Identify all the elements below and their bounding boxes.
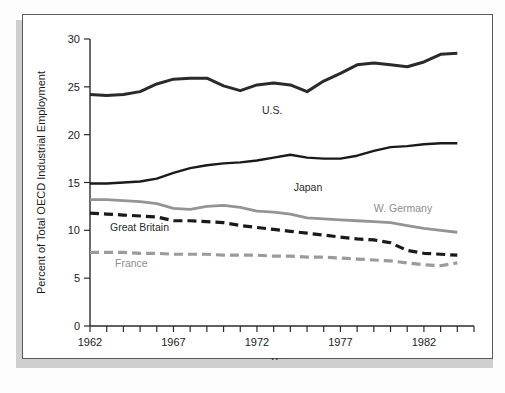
series-label-japan: Japan: [294, 181, 323, 193]
y-axis-title: Percent of Total OECD Industrial Employm…: [35, 71, 47, 294]
y-axis-tick-label: 25: [68, 81, 80, 93]
x-axis-title: Year: [271, 356, 294, 360]
x-axis-tick-label: 1967: [161, 336, 185, 348]
chart-canvas: 05101520253019621967197219771982YearPerc…: [23, 15, 494, 360]
series-line-great-britain: [90, 213, 457, 255]
series-label-france: France: [115, 257, 148, 269]
line-chart: 05101520253019621967197219771982YearPerc…: [23, 15, 494, 360]
x-axis-tick-label: 1982: [412, 336, 436, 348]
y-axis-tick-label: 5: [74, 272, 80, 284]
x-axis-tick-label: 1977: [328, 336, 352, 348]
x-axis-tick-label: 1962: [78, 336, 102, 348]
y-axis-tick-label: 10: [68, 224, 80, 236]
y-axis-tick-label: 0: [74, 320, 80, 332]
series-line-u-s: [90, 53, 457, 95]
series-label-u-s: U.S.: [262, 104, 282, 116]
y-axis-tick-label: 15: [68, 177, 80, 189]
y-axis-tick-label: 20: [68, 129, 80, 141]
series-line-japan: [90, 143, 457, 183]
x-axis-tick-label: 1972: [245, 336, 269, 348]
page-background: 05101520253019621967197219771982YearPerc…: [0, 0, 505, 393]
y-axis-tick-label: 30: [68, 33, 80, 45]
series-label-great-britain: Great Britain: [110, 221, 169, 233]
figure-frame: 05101520253019621967197219771982YearPerc…: [22, 14, 493, 359]
series-label-w-germany: W. Germany: [374, 202, 433, 214]
